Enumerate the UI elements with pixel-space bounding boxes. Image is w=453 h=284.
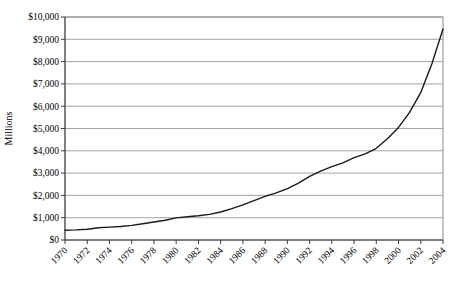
- y-tick-label: $2,000: [33, 191, 59, 201]
- y-tick-label: $9,000: [33, 35, 59, 45]
- y-tick-label: $5,000: [33, 124, 59, 134]
- y-tick-label: $7,000: [33, 79, 59, 89]
- y-tick-label: $1,000: [33, 213, 59, 223]
- millions-growth-line-chart: $0$1,000$2,000$3,000$4,000$5,000$6,000$7…: [0, 0, 453, 284]
- y-tick-label: $8,000: [33, 57, 59, 67]
- chart-page: $0$1,000$2,000$3,000$4,000$5,000$6,000$7…: [0, 0, 453, 284]
- y-tick-label: $6,000: [33, 102, 59, 112]
- chart-background: [0, 0, 453, 284]
- y-tick-label: $4,000: [33, 146, 59, 156]
- y-tick-label: $10,000: [28, 12, 59, 22]
- y-tick-label: $3,000: [33, 168, 59, 178]
- y-axis-title: Millions: [3, 111, 14, 145]
- y-tick-label: $0: [50, 235, 60, 245]
